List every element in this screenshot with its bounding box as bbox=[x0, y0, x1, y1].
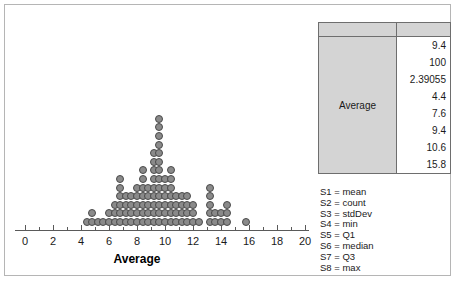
data-point bbox=[206, 201, 214, 209]
x-axis-minor-tick bbox=[207, 227, 208, 230]
x-axis-tick-label: 12 bbox=[181, 235, 205, 247]
x-axis-tick-label: 4 bbox=[69, 235, 93, 247]
table-row: 2.39055 bbox=[397, 71, 450, 88]
chart-screenshot: 02468101214161820 Average Average 9.4100… bbox=[0, 0, 459, 290]
legend-entry: S8 = max bbox=[320, 263, 374, 274]
x-axis-minor-tick bbox=[95, 227, 96, 230]
table-header-row bbox=[319, 23, 451, 37]
data-point bbox=[116, 175, 124, 183]
x-axis-line bbox=[15, 230, 309, 231]
data-point bbox=[206, 184, 214, 192]
data-point bbox=[155, 115, 163, 123]
x-axis-tick-label: 14 bbox=[209, 235, 233, 247]
stat-value-max: 15.8 bbox=[397, 156, 450, 173]
x-axis-major-tick bbox=[109, 225, 110, 230]
x-axis-minor-tick bbox=[263, 227, 264, 230]
data-point bbox=[155, 123, 163, 131]
x-axis-major-tick bbox=[277, 225, 278, 230]
x-axis-major-tick bbox=[221, 225, 222, 230]
x-axis-major-tick bbox=[165, 225, 166, 230]
data-point bbox=[155, 166, 163, 174]
table-row: 7.6 bbox=[397, 105, 450, 122]
x-axis-tick-label: 20 bbox=[293, 235, 317, 247]
table-header-cell-label bbox=[319, 23, 397, 37]
data-point bbox=[189, 209, 197, 217]
x-axis-tick-label: 16 bbox=[237, 235, 261, 247]
x-axis-major-tick bbox=[25, 225, 26, 230]
stat-value-median: 9.4 bbox=[397, 122, 450, 139]
data-point bbox=[155, 158, 163, 166]
table-row: 100 bbox=[397, 54, 450, 71]
x-axis-major-tick bbox=[305, 225, 306, 230]
data-point bbox=[116, 184, 124, 192]
x-axis-minor-tick bbox=[123, 227, 124, 230]
x-axis-minor-tick bbox=[291, 227, 292, 230]
data-point bbox=[167, 184, 175, 192]
data-point bbox=[223, 201, 231, 209]
statistics-legend: S1 = meanS2 = countS3 = stdDevS4 = minS5… bbox=[320, 187, 374, 273]
table-values-cell: 9.41002.390554.47.69.410.615.8 bbox=[397, 37, 451, 174]
data-point bbox=[88, 209, 96, 217]
table-row-label: Average bbox=[319, 37, 397, 174]
x-axis-minor-tick bbox=[67, 227, 68, 230]
stat-value-mean: 9.4 bbox=[397, 37, 450, 54]
data-point bbox=[223, 209, 231, 217]
x-axis-title: Average bbox=[97, 252, 177, 266]
data-point bbox=[189, 201, 197, 209]
data-point bbox=[167, 166, 175, 174]
stat-value-stdDev: 2.39055 bbox=[397, 71, 450, 88]
x-axis-major-tick bbox=[249, 225, 250, 230]
table-row: 10.6 bbox=[397, 139, 450, 156]
table-row: 9.4 bbox=[397, 37, 450, 54]
data-point bbox=[155, 132, 163, 140]
table-row: 15.8 bbox=[397, 156, 450, 173]
x-axis-tick-label: 0 bbox=[13, 235, 37, 247]
x-axis-major-tick bbox=[137, 225, 138, 230]
table-row: 9.4 bbox=[397, 122, 450, 139]
legend-entry: S7 = Q3 bbox=[320, 252, 374, 263]
data-point bbox=[139, 166, 147, 174]
x-axis-tick-label: 18 bbox=[265, 235, 289, 247]
table-row: Average 9.41002.390554.47.69.410.615.8 bbox=[319, 37, 451, 174]
x-axis-major-tick bbox=[53, 225, 54, 230]
table-header-cell-value bbox=[397, 23, 451, 37]
table-row: 4.4 bbox=[397, 88, 450, 105]
data-point bbox=[195, 218, 203, 226]
x-axis-tick-label: 10 bbox=[153, 235, 177, 247]
stat-value-Q1: 7.6 bbox=[397, 105, 450, 122]
x-axis-minor-tick bbox=[151, 227, 152, 230]
data-point bbox=[155, 149, 163, 157]
summary-statistics-table: Average 9.41002.390554.47.69.410.615.8 bbox=[318, 22, 451, 174]
stat-value-Q3: 10.6 bbox=[397, 139, 450, 156]
data-point bbox=[155, 141, 163, 149]
data-point bbox=[167, 175, 175, 183]
data-point bbox=[183, 192, 191, 200]
data-point bbox=[139, 175, 147, 183]
x-axis-minor-tick bbox=[39, 227, 40, 230]
data-point bbox=[206, 192, 214, 200]
x-axis-tick-label: 2 bbox=[41, 235, 65, 247]
stat-value-count: 100 bbox=[397, 54, 450, 71]
dot-plot-area: 02468101214161820 Average bbox=[8, 8, 318, 273]
x-axis-tick-label: 8 bbox=[125, 235, 149, 247]
summary-values-list: 9.41002.390554.47.69.410.615.8 bbox=[397, 37, 450, 173]
data-point bbox=[223, 218, 231, 226]
x-axis-tick-label: 6 bbox=[97, 235, 121, 247]
x-axis-minor-tick bbox=[235, 227, 236, 230]
x-axis-major-tick bbox=[193, 225, 194, 230]
x-axis-minor-tick bbox=[179, 227, 180, 230]
x-axis-major-tick bbox=[81, 225, 82, 230]
legend-entry: S2 = count bbox=[320, 198, 374, 209]
stat-value-min: 4.4 bbox=[397, 88, 450, 105]
